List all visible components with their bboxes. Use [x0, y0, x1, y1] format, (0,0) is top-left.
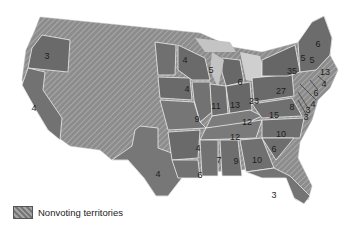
label-kentucky: 12 — [242, 118, 252, 127]
label-alabama: 9 — [233, 157, 238, 166]
label-california: 4 — [31, 104, 36, 113]
label-missouri: 9 — [194, 115, 199, 124]
legend-label: Nonvoting territories — [38, 207, 123, 218]
label-maryland: 8 — [289, 103, 294, 112]
label-michigan: 6 — [237, 78, 242, 87]
label-tennessee: 12 — [230, 133, 240, 142]
label-new-jersey: 4 — [310, 100, 315, 109]
label-wisconsin: 5 — [208, 66, 213, 75]
label-minnesota: 4 — [182, 56, 187, 65]
state-mississippi — [200, 140, 218, 176]
label-maryland-2: 3 — [303, 113, 308, 122]
label-iowa: 4 — [184, 85, 189, 94]
label-indiana: 13 — [230, 101, 240, 110]
label-georgia: 10 — [252, 156, 262, 165]
label-pennsylvania: 27 — [276, 87, 286, 96]
label-connecticut: 6 — [313, 89, 318, 98]
state-alabama — [220, 140, 242, 176]
label-new-hampshire: 5 — [309, 56, 314, 65]
label-massachusetts: 13 — [320, 68, 330, 77]
label-texas: 4 — [155, 170, 160, 179]
us-map — [0, 0, 344, 238]
label-oregon: 3 — [44, 52, 49, 61]
label-maine: 6 — [315, 40, 320, 49]
label-south-carolina: 6 — [271, 145, 276, 154]
label-new-york: 35 — [287, 67, 297, 76]
hatch-swatch-icon — [13, 206, 33, 219]
label-north-carolina: 10 — [276, 130, 286, 139]
label-illinois: 11 — [211, 102, 220, 111]
label-rhode-island: 4 — [321, 80, 326, 89]
label-arkansas: 4 — [195, 144, 200, 153]
legend: Nonvoting territories — [13, 206, 123, 219]
label-mississippi: 7 — [216, 156, 221, 165]
state-minnesota — [155, 42, 176, 75]
label-florida: 3 — [271, 191, 276, 200]
label-virginia: 15 — [269, 111, 279, 120]
label-ohio: 23 — [249, 97, 259, 106]
label-vermont: 5 — [300, 54, 305, 63]
label-louisiana: 6 — [197, 171, 202, 180]
